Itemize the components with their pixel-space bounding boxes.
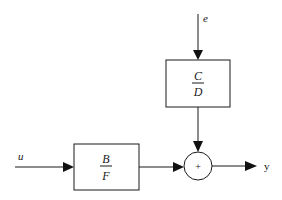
u-label: u xyxy=(18,150,24,162)
y-arrowhead-icon xyxy=(245,161,257,171)
plant-denominator: F xyxy=(101,169,110,183)
noise-denominator: D xyxy=(193,85,203,99)
e-label: e xyxy=(203,12,208,24)
summing-symbol: + xyxy=(195,161,201,172)
u-arrowhead-icon xyxy=(63,162,74,172)
plant-block xyxy=(74,144,139,190)
y-label: y xyxy=(264,160,270,172)
plant-to-sum-arrowhead-icon xyxy=(173,162,184,172)
e-arrowhead-icon xyxy=(193,50,203,60)
block-diagram: e C D u B F + y xyxy=(0,0,282,200)
noise-numerator: C xyxy=(194,69,203,83)
plant-numerator: B xyxy=(102,152,110,166)
noise-to-sum-arrowhead-icon xyxy=(193,141,203,152)
